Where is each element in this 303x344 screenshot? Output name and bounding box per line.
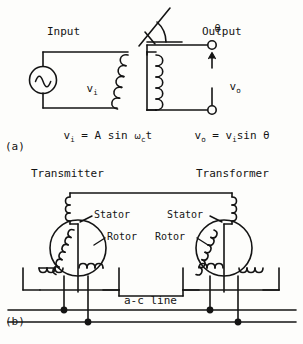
stator-coil-left-top <box>66 197 71 221</box>
theta-angle-label: θ <box>176 3 221 51</box>
transformer-title: Transformer <box>196 168 269 179</box>
stator-label-right: Stator <box>167 210 203 220</box>
rotor-winding-right <box>196 230 218 276</box>
stator-coil-right-top <box>232 197 237 221</box>
equation-output: vo = visin θ <box>168 119 269 152</box>
theta-symbol: θ <box>215 23 221 34</box>
leader-rotor-right <box>197 238 208 245</box>
panel-b-tag: (b) <box>5 316 25 327</box>
sine-wave-glyph <box>36 76 51 87</box>
ac-line-label: a-c line <box>124 295 177 306</box>
input-title: Input <box>47 26 80 37</box>
transmitter-title: Transmitter <box>31 168 104 179</box>
junction-dot-icon <box>85 319 90 324</box>
output-voltage-label: vo <box>203 70 241 103</box>
stator-coil-right <box>156 55 163 110</box>
rotor-label-left: Rotor <box>107 232 137 242</box>
panel-a-tag: (a) <box>5 141 25 152</box>
figure-page: Input Output θ vi vo vi = A sin ωct vo =… <box>0 0 303 344</box>
stator-label-left: Stator <box>94 210 130 220</box>
junction-dot-icon <box>61 307 66 312</box>
leader-rotor-left <box>94 238 105 245</box>
equation-input: vi = A sin ωct <box>37 119 152 152</box>
rotor-coil-left <box>111 54 128 109</box>
input-voltage-label: vi <box>60 72 98 105</box>
rotor-label-right: Rotor <box>155 232 185 242</box>
junction-dot-icon <box>207 307 212 312</box>
junction-dot-icon <box>235 319 240 324</box>
output-terminal-bottom-icon <box>208 106 216 114</box>
